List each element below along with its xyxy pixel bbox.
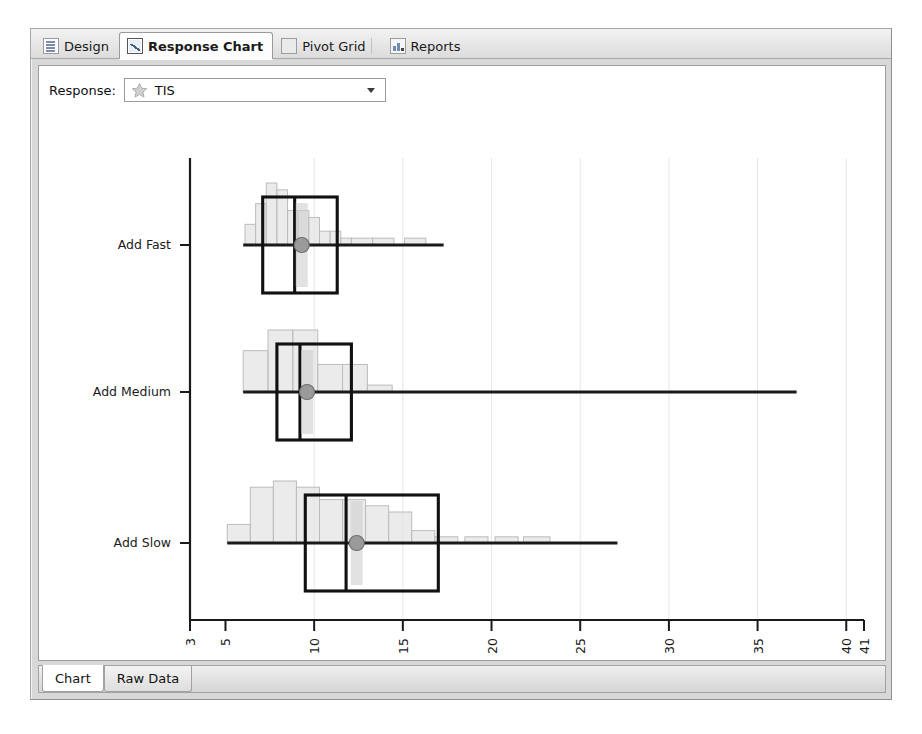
x-tick-label: 15 xyxy=(396,638,411,654)
tab-raw-data[interactable]: Raw Data xyxy=(104,666,193,692)
tab-reports[interactable]: Reports xyxy=(382,32,471,59)
box-plot-series xyxy=(243,330,796,440)
x-tick-label: 3 xyxy=(183,638,198,646)
histogram-bar xyxy=(319,231,330,245)
tab-divider xyxy=(371,38,372,54)
histogram-bar xyxy=(309,217,320,245)
box-plot-chart: Add FastAdd MediumAdd Slow35101520253035… xyxy=(39,66,887,662)
mean-marker xyxy=(294,238,309,253)
category-label: Add Slow xyxy=(114,535,171,550)
tab-pivot-grid[interactable]: Pivot Grid xyxy=(273,32,381,59)
box-plot-series xyxy=(243,183,443,293)
histogram-bar xyxy=(256,204,267,245)
x-tick-label: 35 xyxy=(751,638,766,654)
x-tick-label: 10 xyxy=(307,638,322,654)
tab-design[interactable]: Design xyxy=(35,32,119,59)
category-label: Add Fast xyxy=(118,237,171,252)
histogram-bar xyxy=(273,481,296,543)
histogram-bar xyxy=(268,330,293,392)
histogram-bar xyxy=(318,364,343,392)
grid-icon xyxy=(281,38,297,54)
tab-chart[interactable]: Chart xyxy=(42,665,104,692)
histogram-bar xyxy=(266,183,277,245)
list-icon xyxy=(43,38,59,54)
histogram-bar xyxy=(227,524,250,543)
x-tick-label: 41 xyxy=(857,638,872,654)
histogram-bar xyxy=(250,487,273,543)
x-tick-label: 20 xyxy=(485,638,500,654)
category-label: Add Medium xyxy=(93,384,171,399)
tab-chart-label: Chart xyxy=(55,671,91,686)
chart-panel: Response: TIS Add FastAdd MediumAdd Slow… xyxy=(38,65,886,661)
x-tick-label: 25 xyxy=(573,638,588,654)
bottom-tab-strip: Chart Raw Data xyxy=(38,665,886,693)
histogram-bar xyxy=(389,512,412,543)
x-tick-label: 30 xyxy=(662,638,677,654)
mean-marker xyxy=(300,385,315,400)
x-tick-label: 40 xyxy=(839,638,854,654)
histogram-bar xyxy=(245,224,256,245)
report-icon xyxy=(390,38,406,54)
x-tick-label: 5 xyxy=(218,638,233,646)
tab-response-chart[interactable]: Response Chart xyxy=(119,32,273,59)
tab-response-chart-label: Response Chart xyxy=(148,39,263,54)
histogram-bar xyxy=(366,506,389,543)
top-tab-strip: Design Response Chart Pivot Grid Reports xyxy=(31,29,891,59)
tab-design-label: Design xyxy=(64,39,109,54)
mean-marker xyxy=(349,536,364,551)
response-chart-window: Design Response Chart Pivot Grid Reports… xyxy=(30,28,892,700)
tab-reports-label: Reports xyxy=(411,39,461,54)
tab-raw-data-label: Raw Data xyxy=(117,671,180,686)
line-chart-icon xyxy=(127,38,143,54)
histogram-bar xyxy=(319,500,342,543)
histogram-bar xyxy=(330,231,341,245)
histogram-bar xyxy=(343,364,368,392)
histogram-bar xyxy=(412,531,435,543)
box-plot-series xyxy=(227,481,617,591)
histogram-bar xyxy=(243,351,268,392)
tab-pivot-grid-label: Pivot Grid xyxy=(302,39,365,54)
